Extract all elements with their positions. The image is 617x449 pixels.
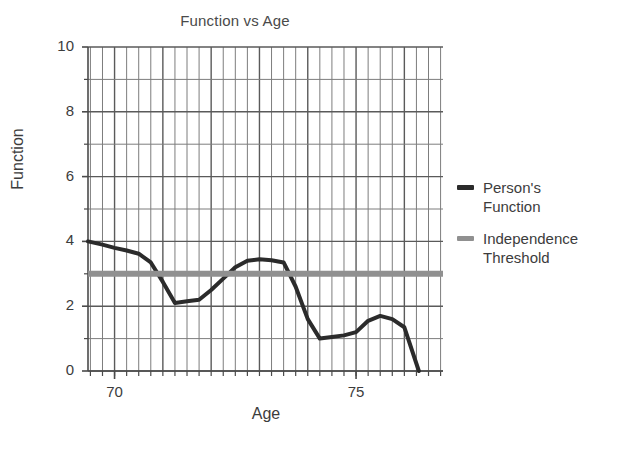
y-tick-label: 4 <box>40 231 74 248</box>
legend-line-swatch-icon <box>457 236 474 241</box>
legend-line-swatch-icon <box>457 185 474 190</box>
y-tick-label: 2 <box>40 296 74 313</box>
legend-label: Person's Function <box>483 178 541 216</box>
legend-label: Independence Threshold <box>483 229 578 267</box>
y-tick-label: 0 <box>40 361 74 378</box>
y-axis-label: Function <box>9 94 27 224</box>
legend-entry[interactable]: Person's Function <box>457 178 612 216</box>
chart-legend: Person's FunctionIndependence Threshold <box>457 178 612 280</box>
legend-entry[interactable]: Independence Threshold <box>457 229 612 267</box>
y-tick-label: 8 <box>40 102 74 119</box>
y-tick-label: 6 <box>40 167 74 184</box>
x-tick-label: 70 <box>95 383 135 400</box>
x-tick-label: 75 <box>336 383 376 400</box>
x-axis-label: Age <box>88 405 444 423</box>
chart-title: Function vs Age <box>0 12 470 29</box>
y-tick-label: 10 <box>40 37 74 54</box>
chart-figure: Function vs Age Function Age 0246810 707… <box>0 0 617 449</box>
